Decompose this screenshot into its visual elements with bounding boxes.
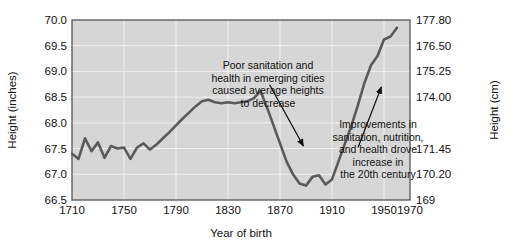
- x-axis-title: Year of birth: [210, 227, 272, 239]
- annotation-line: caused average heights: [212, 84, 324, 96]
- y-axis-right-tick-label: 171.45: [416, 143, 451, 155]
- annotation-increase: Improvements insanitation, nutrition,and…: [332, 118, 423, 180]
- annotation-line: and health drove: [339, 143, 417, 155]
- x-axis-tick-label: 1830: [215, 204, 241, 216]
- x-axis-tick-label: 1910: [319, 204, 345, 216]
- y-axis-right-tick-label: 175.25: [416, 65, 451, 77]
- x-axis-tick-label: 1750: [111, 204, 137, 216]
- annotation-line: Improvements in: [339, 118, 417, 130]
- y-axis-left-tick-label: 68.0: [45, 117, 67, 129]
- annotation-line: sanitation, nutrition,: [332, 131, 423, 143]
- x-axis-tick-label: 1710: [59, 204, 85, 216]
- y-axis-left-tick-label: 70.0: [45, 14, 67, 26]
- y-axis-right-tick-label: 176.50: [416, 40, 451, 52]
- y-axis-right-title: Height (cm): [488, 80, 500, 140]
- chart-figure: 66.567.067.568.068.569.069.570.0 169170.…: [0, 0, 514, 250]
- annotation-line: the 20th century: [340, 168, 416, 180]
- x-axis-tick-label: 1790: [163, 204, 189, 216]
- x-axis-tick-label: 1870: [267, 204, 293, 216]
- y-axis-right-tick-label: 177.80: [416, 14, 451, 26]
- y-axis-left-tick-label: 67.0: [45, 168, 67, 180]
- y-axis-left-title: Height (inches): [6, 71, 18, 149]
- annotation-line: increase in: [353, 156, 404, 168]
- annotation-line: health in emerging cities: [211, 72, 324, 84]
- annotation-line: Poor sanitation and: [223, 59, 314, 71]
- x-axis-tick-label: 1950: [371, 204, 397, 216]
- y-axis-left-tick-label: 68.5: [45, 91, 67, 103]
- y-axis-left-tick-label: 67.5: [45, 143, 67, 155]
- y-axis-right-tick-label: 170.20: [416, 168, 451, 180]
- y-axis-left-tick-label: 69.5: [45, 40, 67, 52]
- annotation-line: to decrease: [241, 97, 296, 109]
- y-axis-left-tick-label: 69.0: [45, 65, 67, 77]
- height-by-year-line-chart: 66.567.067.568.068.569.069.570.0 169170.…: [0, 0, 514, 250]
- x-axis-tick-label: 1970: [397, 204, 423, 216]
- y-axis-right-tick-label: 174.00: [416, 91, 451, 103]
